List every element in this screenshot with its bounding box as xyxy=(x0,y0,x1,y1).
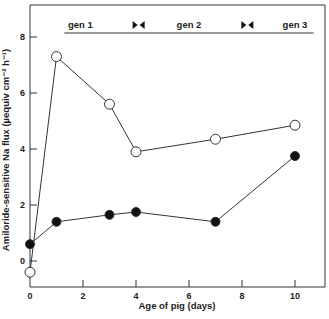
y-tick-label: 6 xyxy=(20,88,25,98)
x-tick-label: 8 xyxy=(239,291,244,301)
data-point-open xyxy=(105,99,115,109)
generation-label: gen 1 xyxy=(68,19,94,30)
generation-label: gen 3 xyxy=(283,19,308,30)
data-point-filled xyxy=(132,208,141,217)
generation-annotations: gen 1gen 2gen 3 xyxy=(64,19,313,33)
series-line-open xyxy=(30,57,295,273)
y-tick-label: 2 xyxy=(20,200,25,210)
y-tick-label: 8 xyxy=(20,32,25,42)
y-axis: 02468 xyxy=(20,32,37,266)
series-lines xyxy=(30,57,295,273)
series-line-filled xyxy=(30,156,295,244)
y-tick-label: 4 xyxy=(20,144,25,154)
data-point-filled xyxy=(52,217,61,226)
transfer-marker-icon xyxy=(140,21,145,29)
data-point-filled xyxy=(26,240,35,249)
x-tick-label: 0 xyxy=(27,291,32,301)
plot-frame xyxy=(30,5,325,287)
chart: 02468 0246810 Age of pig (days) Amilorid… xyxy=(0,0,329,319)
data-point-filled xyxy=(105,210,114,219)
series-points xyxy=(25,52,300,278)
data-point-filled xyxy=(291,152,300,161)
data-point-open xyxy=(131,147,141,157)
y-tick-label: 0 xyxy=(20,256,25,266)
data-point-open xyxy=(25,267,35,277)
data-point-open xyxy=(211,134,221,144)
data-point-open xyxy=(290,120,300,130)
x-tick-label: 10 xyxy=(290,291,300,301)
transfer-marker-icon xyxy=(133,21,138,29)
data-point-filled xyxy=(211,217,220,226)
y-axis-title: Amiloride-sensitive Na flux (µequiv cm⁻²… xyxy=(0,49,11,251)
transfer-marker-icon xyxy=(241,21,246,29)
x-tick-label: 2 xyxy=(80,291,85,301)
x-axis-title: Age of pig (days) xyxy=(138,300,215,311)
x-axis: 0246810 xyxy=(27,280,300,301)
generation-label: gen 2 xyxy=(177,19,202,30)
transfer-marker-icon xyxy=(248,21,253,29)
data-point-open xyxy=(52,52,62,62)
